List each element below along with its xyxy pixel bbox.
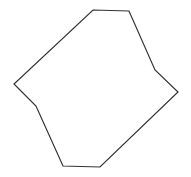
polygon-figure <box>0 0 191 177</box>
outline-polygon <box>14 10 178 167</box>
drawing-canvas <box>0 0 191 177</box>
